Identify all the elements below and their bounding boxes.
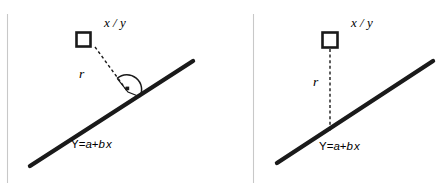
data-point-marker-left <box>77 33 91 47</box>
data-point-marker-right <box>323 33 338 48</box>
point-label-left: x / y <box>104 13 126 31</box>
equation-predictor-left: x <box>106 138 112 150</box>
regression-residual-figure: x / y r Y=a+b x x / y r Y=a+b x <box>0 0 445 195</box>
figure-canvas <box>0 0 445 195</box>
residual-label-right: r <box>313 72 318 90</box>
equation-lhs-left: Y <box>71 138 79 150</box>
right-angle-arc-left <box>117 75 142 97</box>
right-angle-dot-left <box>126 87 130 91</box>
equation-label-left: Y=a+b x <box>71 138 112 150</box>
residual-label-left: r <box>79 64 84 82</box>
point-label-right: x / y <box>351 13 373 31</box>
equation-lhs-right: Y <box>319 140 327 152</box>
regression-line-left <box>30 61 193 166</box>
equation-predictor-right: x <box>354 140 360 152</box>
equation-plus-left: + <box>92 138 99 150</box>
equation-plus-right: + <box>340 140 347 152</box>
equation-label-right: Y=a+b x <box>319 140 360 152</box>
